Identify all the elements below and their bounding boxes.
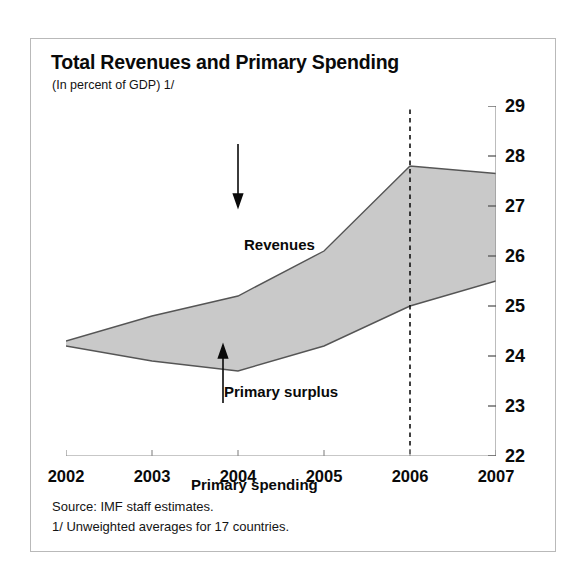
chart-subtitle: (In percent of GDP) 1/ xyxy=(52,78,174,92)
x-axis-tick-label: 2005 xyxy=(289,467,359,486)
source-note: Source: IMF staff estimates. xyxy=(52,497,289,517)
y-axis-tick-label: 22 xyxy=(505,447,545,465)
y-axis-tick-label: 29 xyxy=(505,97,545,115)
x-axis-tick-label: 2004 xyxy=(203,467,273,486)
x-axis-tick-label: 2007 xyxy=(461,467,531,486)
annotation-primary-surplus: Primary surplus xyxy=(224,383,338,400)
y-axis-tick-label: 26 xyxy=(505,247,545,265)
primary-surplus-band xyxy=(66,166,496,371)
x-axis-tick-label: 2003 xyxy=(117,467,187,486)
y-axis-tick-label: 24 xyxy=(505,347,545,365)
x-axis-ticks xyxy=(66,450,496,456)
y-axis-tick-label: 25 xyxy=(505,297,545,315)
x-axis-tick-label: 2002 xyxy=(31,467,101,486)
annotation-revenues: Revenues xyxy=(244,236,315,253)
y-axis-tick-label: 28 xyxy=(505,147,545,165)
y-axis-labels: 2928272625242322 xyxy=(505,99,551,463)
footnote-1: 1/ Unweighted averages for 17 countries. xyxy=(52,517,289,537)
revenues-arrow-icon xyxy=(234,144,243,207)
y-axis-tick-label: 23 xyxy=(505,397,545,415)
x-axis-labels: 200220032004200520062007 xyxy=(31,467,557,495)
y-axis-tick-label: 27 xyxy=(505,197,545,215)
plot-area: Revenues Primary surplus Primary spendin… xyxy=(66,106,496,456)
chart-canvas xyxy=(66,106,496,456)
footnotes: Source: IMF staff estimates. 1/ Unweight… xyxy=(52,497,289,537)
figure-frame: Total Revenues and Primary Spending (In … xyxy=(30,38,556,552)
page-title: Total Revenues and Primary Spending xyxy=(51,51,399,74)
x-axis-tick-label: 2006 xyxy=(375,467,445,486)
